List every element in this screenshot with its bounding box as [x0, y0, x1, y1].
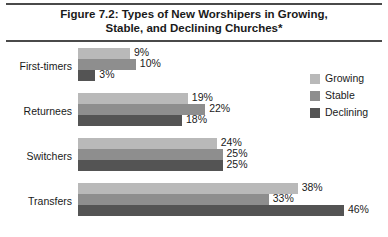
bar-value-label: 10%: [136, 57, 161, 69]
bar-stable-transfers: [78, 194, 269, 205]
legend-label-stable: Stable: [325, 89, 355, 101]
bar-declining-switchers: [78, 160, 223, 171]
bar-growing-returnees: [78, 93, 188, 104]
legend-label-growing: Growing: [325, 72, 364, 84]
figure-container: Figure 7.2: Types of New Worshipers in G…: [0, 0, 388, 237]
legend-label-declining: Declining: [325, 106, 368, 118]
category-label-switchers: Switchers: [0, 150, 72, 162]
bar-row: 33%: [78, 194, 378, 205]
legend-swatch-stable: [310, 91, 320, 101]
bar-value-label: 22%: [205, 102, 230, 114]
category-label-transfers: Transfers: [0, 195, 72, 207]
title-divider: [6, 40, 382, 42]
bar-value-label: 33%: [269, 192, 294, 204]
bar-growing-transfers: [78, 183, 298, 194]
legend-item-growing: Growing: [310, 72, 386, 87]
bar-row: 10%: [78, 59, 378, 70]
bar-growing-switchers: [78, 138, 217, 149]
bar-stable-switchers: [78, 149, 223, 160]
legend-item-stable: Stable: [310, 89, 386, 104]
bar-value-label: 25%: [223, 158, 248, 170]
bar-value-label: 18%: [182, 113, 207, 125]
figure-title: Figure 7.2: Types of New Worshipers in G…: [30, 7, 358, 35]
figure-title-line-1: Figure 7.2: Types of New Worshipers in G…: [30, 7, 358, 21]
bar-growing-first-timers: [78, 48, 130, 59]
figure-title-line-2: Stable, and Declining Churches*: [30, 21, 358, 35]
bar-declining-transfers: [78, 205, 344, 216]
bar-group: Switchers24%25%25%: [0, 138, 388, 178]
bar-row: 46%: [78, 205, 378, 216]
bar-row: 9%: [78, 48, 378, 59]
category-label-first-timers: First-timers: [0, 60, 72, 72]
bar-row: 25%: [78, 160, 378, 171]
bar-value-label: 3%: [95, 68, 114, 80]
bar-value-label: 38%: [298, 181, 323, 193]
category-label-returnees: Returnees: [0, 105, 72, 117]
bar-row: 38%: [78, 183, 378, 194]
bar-declining-returnees: [78, 115, 182, 126]
bar-value-label: 46%: [344, 203, 369, 215]
legend-swatch-growing: [310, 74, 320, 84]
legend-item-declining: Declining: [310, 106, 386, 121]
bar-declining-first-timers: [78, 70, 95, 81]
top-divider: [6, 3, 382, 5]
chart-legend: GrowingStableDeclining: [310, 72, 386, 123]
legend-swatch-declining: [310, 108, 320, 118]
bar-group: Transfers38%33%46%: [0, 183, 388, 223]
